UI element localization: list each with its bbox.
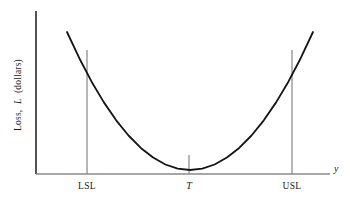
y-axis-label-variable: L [13, 99, 23, 105]
x-tick-label-lsl: LSL [78, 181, 96, 191]
x-tick-label-usl: USL [283, 181, 302, 191]
y-axis-label-prefix: Loss, [13, 110, 23, 131]
loss-curve-path [67, 32, 313, 170]
loss-function-figure: y LSL T USL Loss, L (dollars) [0, 0, 350, 200]
chart-canvas: y LSL T USL Loss, L (dollars) [0, 0, 350, 200]
reference-lines-group [87, 50, 292, 174]
y-axis-label-group: Loss, L (dollars) [13, 59, 24, 131]
y-axis-label: Loss, L (dollars) [13, 59, 24, 131]
y-axis-label-suffix: (dollars) [13, 59, 24, 93]
x-tick-label-target: T [186, 180, 193, 191]
x-axis-label: y [333, 163, 339, 174]
